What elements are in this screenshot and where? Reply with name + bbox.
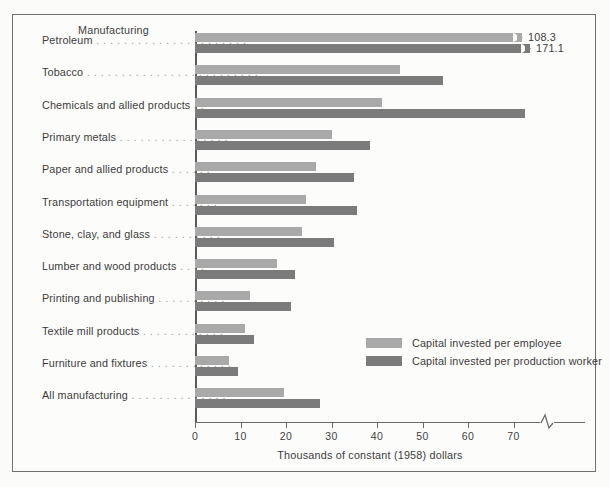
chart-legend: Capital invested per employee Capital in… — [366, 337, 602, 373]
category-row: Printing and publishing . . . . . . . . … — [42, 292, 190, 304]
category-row: Textile mill products . . . . . . . . . … — [42, 325, 190, 337]
leader-dots: . . . . . . . . . . . . . . . . . . . . … — [93, 34, 247, 46]
x-tick — [332, 422, 333, 428]
x-tick-label: 10 — [226, 430, 256, 442]
x-tick-label: 40 — [362, 430, 392, 442]
leader-dots: . . . . — [176, 260, 204, 272]
leader-dots: . . — [190, 99, 204, 111]
category-label: Paper and allied products — [42, 163, 168, 175]
leader-dots: . . . . . . . . . . . . — [147, 357, 231, 369]
leader-dots: . . . . . . . . . . . . . . — [128, 389, 226, 401]
category-row: Primary metals . . . . . . . . . . . . .… — [42, 131, 190, 143]
x-tick — [195, 422, 196, 428]
category-row: Paper and allied products . . . . . . — [42, 163, 190, 175]
category-label: Lumber and wood products — [42, 260, 176, 272]
category-label: Furniture and fixtures — [42, 357, 147, 369]
legend-label-employee: Capital invested per employee — [412, 337, 562, 349]
bar-capital-invested-per-production-worker — [195, 173, 354, 182]
x-tick — [468, 422, 469, 428]
leader-dots: . . . . . . . . . . — [155, 292, 225, 304]
legend-swatch-production-worker — [366, 356, 402, 366]
category-row: Furniture and fixtures . . . . . . . . .… — [42, 357, 190, 369]
chart-page: Manufacturing 010203040506070 Petroleum … — [0, 0, 610, 487]
bar-capital-invested-per-production-worker — [195, 109, 525, 118]
category-row: Chemicals and allied products . . — [42, 99, 190, 111]
bar-capital-invested-per-employee — [195, 259, 277, 268]
category-label: All manufacturing — [42, 389, 128, 401]
leader-dots: . . . . . . . . . . — [150, 228, 220, 240]
x-tick — [286, 422, 287, 428]
plot-area: 010203040506070 Petroleum . . . . . . . … — [0, 0, 610, 487]
bar-capital-invested-per-employee — [195, 98, 382, 107]
category-label: Primary metals — [42, 131, 116, 143]
category-label: Transportation equipment — [42, 196, 168, 208]
category-label: Tobacco — [42, 66, 83, 78]
x-tick-label: 70 — [499, 430, 529, 442]
category-label: Stone, clay, and glass — [42, 228, 150, 240]
category-row: Stone, clay, and glass . . . . . . . . .… — [42, 228, 190, 240]
bar-capital-invested-per-employee — [195, 162, 316, 171]
category-row: Transportation equipment . . . . . . . — [42, 196, 190, 208]
leader-dots: . . . . . . . . . . . . . . . . — [116, 131, 228, 143]
category-row: Petroleum . . . . . . . . . . . . . . . … — [42, 34, 190, 46]
leader-dots: . . . . . . . . . . . . . . . . . . . . … — [83, 66, 258, 78]
legend-item: Capital invested per production worker — [366, 355, 602, 367]
x-tick — [241, 422, 242, 428]
legend-label-production-worker: Capital invested per production worker — [412, 355, 602, 367]
x-tick-label: 60 — [453, 430, 483, 442]
x-tick — [377, 422, 378, 428]
leader-dots: . . . . . . . — [168, 196, 217, 208]
bar-value-label: 171.1 — [536, 42, 564, 54]
x-tick — [514, 422, 515, 428]
legend-item: Capital invested per employee — [366, 337, 602, 349]
x-tick — [423, 422, 424, 428]
leader-dots: . . . . . . — [168, 163, 210, 175]
x-tick-label: 50 — [408, 430, 438, 442]
category-label: Printing and publishing — [42, 292, 155, 304]
x-tick-label: 0 — [180, 430, 210, 442]
x-tick-label: 20 — [271, 430, 301, 442]
leader-dots: . . . . . . . . . . . . — [139, 325, 223, 337]
category-row: Tobacco . . . . . . . . . . . . . . . . … — [42, 66, 190, 78]
x-tick-label: 30 — [317, 430, 347, 442]
category-label: Chemicals and allied products — [42, 99, 190, 111]
category-row: Lumber and wood products . . . . — [42, 260, 190, 272]
x-axis-line — [195, 422, 585, 423]
category-label: Textile mill products — [42, 325, 139, 337]
category-row: All manufacturing . . . . . . . . . . . … — [42, 389, 190, 401]
category-label: Petroleum — [42, 34, 93, 46]
bar-capital-invested-per-production-worker — [195, 270, 295, 279]
bar-capital-invested-per-production-worker — [195, 206, 357, 215]
x-axis-title: Thousands of constant (1958) dollars — [195, 449, 545, 461]
legend-swatch-employee — [366, 338, 402, 348]
